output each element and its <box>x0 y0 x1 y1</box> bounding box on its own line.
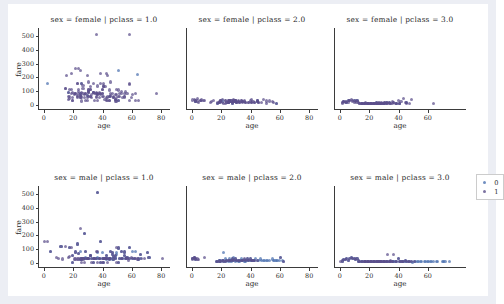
data-point <box>98 257 101 260</box>
data-point <box>70 246 73 249</box>
y-tick-mark <box>36 263 39 264</box>
data-point <box>139 253 142 256</box>
data-point <box>347 259 350 262</box>
x-tick-mark <box>192 268 193 271</box>
y-axis-label: fare <box>14 62 23 77</box>
data-point <box>84 250 87 253</box>
x-tick-mark <box>428 110 429 113</box>
y-tick-label: 500 <box>22 32 34 40</box>
data-point <box>224 99 227 102</box>
data-point <box>79 227 82 230</box>
data-point <box>61 257 64 260</box>
data-point <box>83 232 86 235</box>
data-point <box>96 99 99 102</box>
y-tick-label: 0 <box>30 101 34 109</box>
data-point <box>59 245 62 248</box>
data-point <box>347 101 350 104</box>
data-point <box>49 250 52 253</box>
data-point <box>268 99 271 102</box>
data-point <box>99 72 102 75</box>
data-point <box>67 98 70 101</box>
facet-title: sex = male | pclass = 2.0 <box>186 173 318 182</box>
data-point <box>117 99 120 102</box>
data-point <box>373 260 376 263</box>
data-point <box>103 85 106 88</box>
plot-area <box>334 186 466 268</box>
y-tick-mark <box>36 36 39 37</box>
legend-item[interactable]: 0 <box>481 178 498 187</box>
y-tick-mark <box>36 249 39 250</box>
legend-marker-icon <box>483 181 486 184</box>
data-point <box>81 87 84 90</box>
x-axis-label: age <box>186 121 318 130</box>
x-tick-mark <box>161 110 162 113</box>
data-point <box>363 260 366 263</box>
x-tick-mark <box>221 110 222 113</box>
x-axis-label: age <box>334 121 466 130</box>
data-point <box>76 82 79 85</box>
x-tick-mark <box>399 110 400 113</box>
data-point <box>95 33 98 36</box>
y-axis-label: fare <box>14 220 23 235</box>
data-point <box>101 88 104 91</box>
data-point <box>448 260 451 263</box>
plot-area <box>186 28 318 110</box>
data-point <box>389 102 392 105</box>
data-point <box>253 101 256 104</box>
data-point <box>436 260 439 263</box>
facet-panel-male-pclass-2.0: sex = male | pclass = 2.0020406080age <box>186 186 318 268</box>
facet-title: sex = female | pclass = 3.0 <box>334 15 466 24</box>
data-point <box>392 253 395 256</box>
data-point <box>46 240 49 243</box>
data-point <box>64 245 67 248</box>
x-tick-mark <box>369 268 370 271</box>
data-point <box>108 257 111 260</box>
data-point <box>357 259 360 262</box>
data-point <box>136 73 139 76</box>
data-point <box>193 257 196 260</box>
x-tick-mark <box>192 110 193 113</box>
y-tick-mark <box>36 77 39 78</box>
x-tick-mark <box>73 110 74 113</box>
data-point <box>143 257 146 260</box>
data-point <box>93 257 96 260</box>
data-point <box>111 251 114 254</box>
x-tick-mark <box>428 268 429 271</box>
data-point <box>125 256 128 259</box>
data-point <box>77 88 80 91</box>
data-point <box>71 261 74 264</box>
data-point <box>203 256 206 259</box>
data-point <box>134 92 137 95</box>
legend-item[interactable]: 1 <box>481 187 498 196</box>
data-point <box>92 82 95 85</box>
y-tick-mark <box>36 50 39 51</box>
data-point <box>443 260 446 263</box>
data-point <box>57 257 60 260</box>
plot-area <box>186 186 318 268</box>
facet-title: sex = male | pclass = 3.0 <box>334 173 466 182</box>
facet-panel-female-pclass-1.0: sex = female | pclass = 1.00100200300400… <box>38 28 170 110</box>
x-tick-mark <box>73 268 74 271</box>
data-point <box>275 102 278 105</box>
data-point <box>386 253 389 256</box>
data-point <box>64 87 67 90</box>
y-tick-label: 400 <box>22 46 34 54</box>
data-point <box>161 257 164 260</box>
data-point <box>95 92 98 95</box>
data-point <box>250 259 253 262</box>
facet-title: sex = male | pclass = 1.0 <box>38 173 170 182</box>
x-tick-mark <box>280 110 281 113</box>
y-tick-label: 400 <box>22 204 34 212</box>
x-tick-mark <box>103 110 104 113</box>
x-tick-mark <box>44 110 45 113</box>
facet-panel-male-pclass-1.0: sex = male | pclass = 1.0010020030040050… <box>38 186 170 268</box>
x-tick-mark <box>280 268 281 271</box>
data-point <box>410 98 413 101</box>
data-point <box>46 82 49 85</box>
facet-title: sex = female | pclass = 1.0 <box>38 15 170 24</box>
data-point <box>256 99 259 102</box>
data-point <box>74 250 77 253</box>
y-tick-label: 0 <box>30 259 34 267</box>
y-tick-label: 100 <box>22 87 34 95</box>
data-point <box>96 84 99 87</box>
